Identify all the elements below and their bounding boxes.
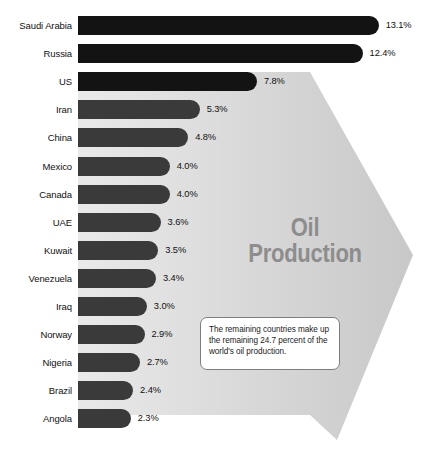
bar-row: Iraq3.0% <box>0 297 432 316</box>
bar-track <box>78 297 147 316</box>
bar-row: Saudi Arabia13.1% <box>0 16 432 35</box>
bar-fill <box>78 128 188 147</box>
oil-production-chart: Oil Production The remaining countries m… <box>0 0 432 459</box>
bar-track <box>78 16 379 35</box>
bar-fill <box>78 241 158 260</box>
bar-fill <box>78 381 133 400</box>
bar-value-label: 3.0% <box>154 297 175 316</box>
bar-category-label: Norway <box>0 325 72 344</box>
bar-fill <box>78 157 170 176</box>
bar-value-label: 7.8% <box>264 72 285 91</box>
bar-category-label: Venezuela <box>0 269 72 288</box>
bar-track <box>78 157 170 176</box>
bar-value-label: 12.4% <box>370 44 396 63</box>
bar-track <box>78 128 188 147</box>
bar-category-label: China <box>0 128 72 147</box>
bar-track <box>78 185 170 204</box>
bar-track <box>78 409 131 428</box>
bar-row: Russia12.4% <box>0 44 432 63</box>
bar-category-label: Brazil <box>0 381 72 400</box>
bar-fill <box>78 325 145 344</box>
bar-row: Mexico4.0% <box>0 157 432 176</box>
bar-fill <box>78 44 363 63</box>
bar-value-label: 3.6% <box>168 213 189 232</box>
bar-value-label: 3.5% <box>165 241 186 260</box>
bar-category-label: UAE <box>0 213 72 232</box>
bar-track <box>78 325 145 344</box>
bar-fill <box>78 100 200 119</box>
bar-value-label: 2.7% <box>147 353 168 372</box>
bar-track <box>78 44 363 63</box>
bar-value-label: 3.4% <box>163 269 184 288</box>
bar-category-label: Iraq <box>0 297 72 316</box>
bar-value-label: 2.4% <box>140 381 161 400</box>
bar-category-label: Saudi Arabia <box>0 16 72 35</box>
bar-row: Venezuela3.4% <box>0 269 432 288</box>
bar-row: Norway2.9% <box>0 325 432 344</box>
bar-fill <box>78 409 131 428</box>
bar-track <box>78 213 161 232</box>
bars-layer: Saudi Arabia13.1%Russia12.4%US7.8%Iran5.… <box>0 0 432 459</box>
bar-value-label: 5.3% <box>207 100 228 119</box>
bar-row: Iran5.3% <box>0 100 432 119</box>
bar-row: Brazil2.4% <box>0 381 432 400</box>
bar-row: Canada4.0% <box>0 185 432 204</box>
bar-fill <box>78 16 379 35</box>
bar-value-label: 4.8% <box>195 128 216 147</box>
bar-fill <box>78 269 156 288</box>
bar-track <box>78 100 200 119</box>
bar-fill <box>78 185 170 204</box>
bar-fill <box>78 297 147 316</box>
bar-row: China4.8% <box>0 128 432 147</box>
bar-category-label: Angola <box>0 409 72 428</box>
bar-row: Angola2.3% <box>0 409 432 428</box>
bar-category-label: Russia <box>0 44 72 63</box>
bar-value-label: 2.3% <box>138 409 159 428</box>
bar-value-label: 2.9% <box>152 325 173 344</box>
bar-fill <box>78 213 161 232</box>
bar-category-label: Kuwait <box>0 241 72 260</box>
bar-category-label: Nigeria <box>0 353 72 372</box>
bar-row: UAE3.6% <box>0 213 432 232</box>
bar-category-label: US <box>0 72 72 91</box>
bar-track <box>78 269 156 288</box>
bar-track <box>78 72 257 91</box>
bar-track <box>78 381 133 400</box>
bar-value-label: 4.0% <box>177 157 198 176</box>
bar-row: Kuwait3.5% <box>0 241 432 260</box>
bar-fill <box>78 353 140 372</box>
bar-category-label: Mexico <box>0 157 72 176</box>
bar-track <box>78 353 140 372</box>
bar-fill <box>78 72 257 91</box>
bar-value-label: 4.0% <box>177 185 198 204</box>
bar-row: US7.8% <box>0 72 432 91</box>
bar-track <box>78 241 158 260</box>
bar-category-label: Iran <box>0 100 72 119</box>
bar-value-label: 13.1% <box>386 16 412 35</box>
bar-row: Nigeria2.7% <box>0 353 432 372</box>
bar-category-label: Canada <box>0 185 72 204</box>
